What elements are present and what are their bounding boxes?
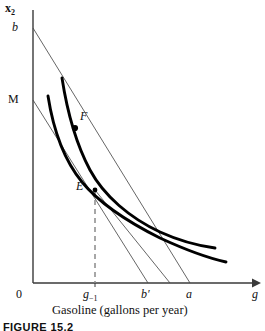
figure-caption: FIGURE 15.2 <box>3 321 73 331</box>
figure-container: x2 b M F E 0 g−1 b′ a g Gasoline (gallon… <box>0 0 265 331</box>
x-axis-caption: Gasoline (gallons per year) <box>52 303 188 318</box>
indifference-curve-lower <box>48 96 226 262</box>
x-tick-label-b-prime: b′ <box>141 288 150 300</box>
y-intercept-label-b: b <box>12 21 18 33</box>
y-axis-subscript: 2 <box>11 8 15 17</box>
point-label-f: F <box>80 110 87 122</box>
origin-label: 0 <box>16 288 22 300</box>
budget-line-b-to-a <box>33 28 190 283</box>
point-f-marker <box>72 125 78 131</box>
point-e-marker <box>93 188 98 193</box>
indifference-curve-upper <box>62 78 215 248</box>
x-tick-label-a: a <box>186 288 192 300</box>
y-axis-label: x2 <box>5 2 15 17</box>
x-axis-label: g <box>252 288 258 300</box>
indifference-curve-chart <box>0 0 265 331</box>
point-label-e: E <box>76 180 83 192</box>
y-intercept-label-m: M <box>8 93 19 105</box>
x-tick-label-g-minus-1: g−1 <box>83 288 98 303</box>
